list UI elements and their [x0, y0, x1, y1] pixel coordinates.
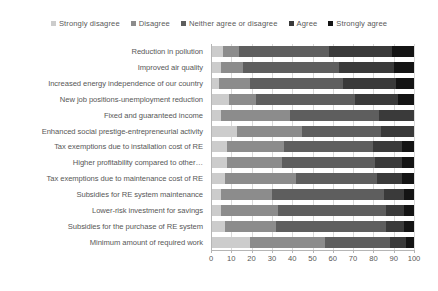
bar-segment-1[interactable]	[227, 141, 284, 152]
bar-segment-3[interactable]	[329, 46, 392, 57]
bar-segment-4[interactable]	[404, 189, 414, 200]
bar-segment-2[interactable]	[284, 141, 373, 152]
legend-item-2[interactable]: Neither agree or disagree	[181, 20, 278, 28]
bar-segment-0[interactable]	[211, 126, 237, 137]
x-axis-tick-90	[394, 250, 395, 253]
bar-segment-0[interactable]	[211, 110, 221, 121]
bar-segment-2[interactable]	[290, 110, 379, 121]
bar-segment-1[interactable]	[221, 189, 272, 200]
bar-segment-1[interactable]	[229, 94, 255, 105]
bar-segment-1[interactable]	[221, 110, 290, 121]
bar-segment-0[interactable]	[211, 205, 221, 216]
category-label-2: Increased energy independence of our cou…	[0, 76, 207, 92]
bar-segment-0[interactable]	[211, 94, 229, 105]
bar-segment-4[interactable]	[396, 78, 414, 89]
bar-segment-4[interactable]	[404, 205, 414, 216]
bar-segment-1[interactable]	[219, 78, 249, 89]
bar-segment-0[interactable]	[211, 237, 250, 248]
bar-row	[211, 44, 414, 60]
bar-row	[211, 155, 414, 171]
stacked-bar[interactable]	[211, 173, 414, 184]
bar-segment-1[interactable]	[237, 126, 302, 137]
bar-segment-4[interactable]	[404, 221, 414, 232]
bar-segment-3[interactable]	[386, 221, 404, 232]
stacked-bar[interactable]	[211, 189, 414, 200]
category-label-5: Enhanced social prestige-entrepreneurial…	[0, 123, 207, 139]
bar-segment-2[interactable]	[282, 157, 375, 168]
bar-segment-3[interactable]	[343, 78, 396, 89]
bar-segment-0[interactable]	[211, 189, 221, 200]
bar-segment-4[interactable]	[406, 237, 414, 248]
bar-segment-3[interactable]	[390, 237, 406, 248]
bar-segment-0[interactable]	[211, 157, 227, 168]
stacked-bar[interactable]	[211, 110, 414, 121]
legend-item-4[interactable]: Strongly agree	[328, 20, 387, 28]
bar-segment-2[interactable]	[272, 189, 384, 200]
bar-segment-4[interactable]	[392, 46, 414, 57]
legend-swatch-icon	[289, 21, 294, 26]
bar-row	[211, 76, 414, 92]
legend-item-0[interactable]: Strongly disagree	[51, 20, 120, 28]
bar-segment-1[interactable]	[221, 62, 243, 73]
x-axis-tick-80	[373, 250, 374, 253]
legend-swatch-icon	[131, 21, 136, 26]
x-axis-tick-label-30: 30	[268, 254, 276, 263]
legend-swatch-icon	[181, 21, 186, 26]
bar-segment-3[interactable]	[377, 173, 401, 184]
bar-segment-2[interactable]	[302, 126, 381, 137]
bar-segment-2[interactable]	[276, 221, 386, 232]
bar-segment-0[interactable]	[211, 141, 227, 152]
bar-segment-3[interactable]	[384, 189, 404, 200]
bar-segment-2[interactable]	[296, 173, 377, 184]
bar-segment-1[interactable]	[227, 157, 282, 168]
bar-segment-2[interactable]	[239, 46, 328, 57]
bar-segment-4[interactable]	[402, 157, 414, 168]
bar-segment-1[interactable]	[221, 205, 278, 216]
bar-segment-3[interactable]	[379, 110, 414, 121]
bar-segment-1[interactable]	[225, 221, 276, 232]
bar-segment-1[interactable]	[250, 237, 325, 248]
bar-row	[211, 218, 414, 234]
legend-item-3[interactable]: Agree	[289, 20, 318, 28]
bar-segment-2[interactable]	[243, 62, 338, 73]
legend-item-1[interactable]: Disagree	[131, 20, 170, 28]
x-axis-tick-0	[211, 250, 212, 253]
stacked-bar[interactable]	[211, 221, 414, 232]
stacked-bar[interactable]	[211, 78, 414, 89]
bar-segment-4[interactable]	[394, 62, 414, 73]
bar-segment-0[interactable]	[211, 221, 225, 232]
bar-segment-0[interactable]	[211, 46, 223, 57]
stacked-bar[interactable]	[211, 94, 414, 105]
x-axis-tick-label-90: 90	[389, 254, 397, 263]
bar-segment-4[interactable]	[402, 173, 414, 184]
stacked-bar[interactable]	[211, 205, 414, 216]
stacked-bar[interactable]	[211, 46, 414, 57]
stacked-bar[interactable]	[211, 157, 414, 168]
bar-segment-3[interactable]	[373, 141, 401, 152]
bar-segment-1[interactable]	[225, 173, 296, 184]
bar-segment-1[interactable]	[223, 46, 239, 57]
bar-segment-2[interactable]	[256, 94, 355, 105]
stacked-bar[interactable]	[211, 141, 414, 152]
bar-segment-3[interactable]	[381, 126, 413, 137]
bar-segment-3[interactable]	[375, 157, 401, 168]
bar-segment-4[interactable]	[402, 141, 414, 152]
bar-segment-4[interactable]	[398, 94, 414, 105]
bar-segment-2[interactable]	[250, 78, 343, 89]
x-axis-tick-label-80: 80	[369, 254, 377, 263]
bar-row	[211, 171, 414, 187]
bar-segment-3[interactable]	[386, 205, 404, 216]
stacked-bar[interactable]	[211, 237, 414, 248]
bar-segment-2[interactable]	[278, 205, 386, 216]
bar-segment-0[interactable]	[211, 62, 221, 73]
category-label-4: Fixed and guaranteed income	[0, 107, 207, 123]
x-axis-tick-label-60: 60	[329, 254, 337, 263]
category-label-3: New job positions-unemployment reduction	[0, 92, 207, 108]
bar-segment-3[interactable]	[339, 62, 394, 73]
bar-segment-0[interactable]	[211, 78, 219, 89]
bar-segment-3[interactable]	[355, 94, 398, 105]
bar-segment-0[interactable]	[211, 173, 225, 184]
stacked-bar[interactable]	[211, 62, 414, 73]
bar-segment-2[interactable]	[325, 237, 390, 248]
stacked-bar[interactable]	[211, 126, 414, 137]
